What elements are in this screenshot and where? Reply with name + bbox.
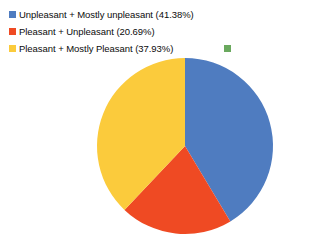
- legend-item-pleasant-mostly-pleasant[interactable]: Pleasant + Mostly Pleasant (37.93%): [9, 42, 173, 55]
- legend-label-pleasant-mostly-pleasant: Pleasant + Mostly Pleasant (37.93%): [19, 43, 173, 54]
- legend-label-unpleasant-mostly-unpleasant: Unpleasant + Mostly unpleasant (41.38%): [19, 9, 194, 20]
- legend-swatch-blue: [9, 11, 16, 18]
- pie-slice-group: [97, 58, 273, 234]
- legend-swatch-green: [224, 45, 231, 52]
- legend-item-empty-series[interactable]: [224, 42, 234, 55]
- legend-label-pleasant-unpleasant: Pleasant + Unpleasant (20.69%): [19, 26, 155, 37]
- pie-svg: [97, 58, 273, 234]
- legend-item-unpleasant-mostly-unpleasant[interactable]: Unpleasant + Mostly unpleasant (41.38%): [9, 8, 194, 21]
- chart-legend: Unpleasant + Mostly unpleasant (41.38%) …: [9, 8, 327, 55]
- legend-swatch-yellow: [9, 45, 16, 52]
- legend-swatch-red: [9, 28, 16, 35]
- legend-item-pleasant-unpleasant[interactable]: Pleasant + Unpleasant (20.69%): [9, 25, 155, 38]
- pie-chart-figure: Unpleasant + Mostly unpleasant (41.38%) …: [0, 0, 332, 243]
- legend-spacer: [180, 42, 224, 55]
- pie-graphic: [97, 58, 273, 234]
